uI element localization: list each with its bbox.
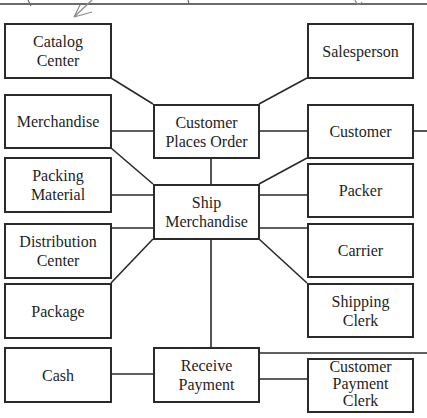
line-merchandise-to-ship — [111, 148, 153, 184]
entity-label-line: Package — [31, 302, 84, 321]
entity-packer: Packer — [307, 163, 414, 218]
entity-label-line: Payment — [329, 375, 391, 392]
entity-label-line: Salesperson — [322, 42, 398, 61]
entity-label-line: Clerk — [329, 392, 391, 409]
entity-label-line: Merchandise — [17, 112, 100, 131]
event-label-line: Merchandise — [165, 212, 248, 231]
entity-cash: Cash — [4, 347, 112, 403]
event-ship-merchandise: Ship Merchandise — [153, 184, 260, 240]
entity-label-line: Packer — [339, 181, 383, 200]
entity-distribution-center: Distribution Center — [4, 223, 112, 279]
text-fragment-marks — [28, 0, 189, 6]
entity-label-line: Material — [31, 185, 85, 204]
event-label-line: Receive — [179, 356, 235, 375]
entity-label-line: Center — [19, 251, 96, 270]
entity-label-line: Catalog — [33, 32, 83, 51]
diagram-canvas: Catalog Center Merchandise Packing Mater… — [0, 0, 427, 418]
line-shipping-clerk-to-ship — [259, 239, 307, 283]
entity-salesperson: Salesperson — [307, 23, 414, 79]
event-customer-places-order: Customer Places Order — [153, 104, 260, 159]
event-label-line: Payment — [179, 375, 235, 394]
entity-label-line: Customer — [329, 122, 391, 141]
event-label-line: Ship — [165, 193, 248, 212]
entity-label-line: Packing — [31, 166, 85, 185]
entity-label-line: Distribution — [19, 232, 96, 251]
entity-label-line: Clerk — [332, 311, 390, 330]
entity-merchandise: Merchandise — [4, 94, 112, 149]
line-catalog-to-order — [111, 78, 153, 104]
event-label-line: Customer — [165, 113, 247, 132]
entity-shipping-clerk: Shipping Clerk — [307, 283, 414, 338]
entity-customer: Customer — [307, 104, 414, 159]
line-salesperson-to-order — [259, 78, 307, 104]
event-receive-payment: Receive Payment — [153, 347, 260, 403]
entity-label-line: Shipping — [332, 292, 390, 311]
line-customer-to-ship — [259, 158, 307, 184]
event-label-line: Places Order — [165, 132, 247, 151]
entity-catalog-center: Catalog Center — [4, 23, 112, 79]
line-package-to-ship — [111, 239, 153, 283]
handwritten-arrow-annotation — [74, 0, 92, 17]
entity-package: Package — [4, 283, 112, 339]
entity-label-line: Center — [33, 51, 83, 70]
entity-packing-material: Packing Material — [4, 157, 112, 213]
entity-label-line: Carrier — [338, 241, 383, 260]
entity-label-line: Cash — [42, 366, 74, 385]
entity-label-line: Customer — [329, 358, 391, 375]
entity-carrier: Carrier — [307, 223, 414, 278]
entity-customer-payment-clerk: Customer Payment Clerk — [307, 358, 414, 413]
